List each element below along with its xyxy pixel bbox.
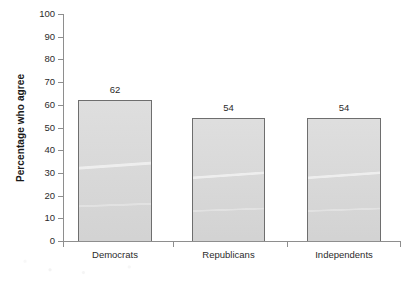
y-axis-tick-label: 10 <box>15 213 55 223</box>
bar-value-label: 54 <box>307 103 381 113</box>
y-axis-tick-label: 20 <box>15 191 55 201</box>
x-axis-tick <box>400 242 401 247</box>
y-axis-tick-label: 60 <box>15 100 55 110</box>
x-axis-tick <box>287 242 288 247</box>
y-axis-tick <box>58 173 63 174</box>
x-axis-line <box>63 241 401 242</box>
x-axis-category-label: Independents <box>282 250 406 260</box>
y-axis-tick-label: 90 <box>15 32 55 42</box>
y-axis-tick <box>58 105 63 106</box>
bar-value-label: 62 <box>78 85 152 95</box>
x-axis-tick <box>173 242 174 247</box>
y-axis-tick-label: 100 <box>15 9 55 19</box>
y-axis-tick <box>58 37 63 38</box>
y-axis-line <box>63 14 64 242</box>
y-axis-tick <box>58 128 63 129</box>
y-axis-tick-label: 70 <box>15 77 55 87</box>
y-axis-tick-label: 40 <box>15 145 55 155</box>
y-axis-tick <box>58 196 63 197</box>
y-axis-tick <box>58 150 63 151</box>
y-axis-tick <box>58 59 63 60</box>
bar-value-label: 54 <box>192 103 265 113</box>
bar <box>307 118 381 241</box>
x-axis-tick <box>63 242 64 247</box>
y-axis-tick <box>58 82 63 83</box>
y-axis-tick-label: 50 <box>15 123 55 133</box>
y-axis-tick <box>58 218 63 219</box>
x-axis-category-label: Democrats <box>53 250 177 260</box>
bar <box>192 118 265 241</box>
y-axis-tick-label: 80 <box>15 54 55 64</box>
y-axis-tick <box>58 14 63 15</box>
y-axis-tick-label: 0 <box>15 236 55 246</box>
x-axis-category-label: Republicans <box>167 250 290 260</box>
bar-chart: Percentage who agree 1009080706050403020… <box>0 0 417 281</box>
y-axis-tick-label: 30 <box>15 168 55 178</box>
bar <box>78 100 152 241</box>
